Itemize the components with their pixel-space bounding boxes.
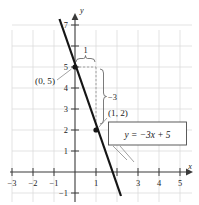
y-tick-label: −1 bbox=[59, 189, 68, 198]
x-tick-label: −2 bbox=[29, 179, 38, 188]
y-tick-label: 3 bbox=[64, 105, 68, 114]
y-axis-arrow bbox=[72, 13, 79, 20]
y-tick-label: 7 bbox=[64, 21, 68, 30]
x-axis-tick-labels: −3 −2 −1 1 3 4 5 bbox=[8, 179, 183, 188]
y-tick-label: 1 bbox=[64, 147, 68, 156]
y-tick-label: 2 bbox=[64, 126, 68, 135]
rise-brace-label: −3 bbox=[108, 93, 117, 102]
x-tick-label: 4 bbox=[157, 179, 162, 188]
equation-text: y = −3x + 5 bbox=[123, 130, 170, 140]
x-tick-label: 5 bbox=[178, 179, 182, 188]
rise-run-dashed-guides bbox=[75, 67, 96, 130]
x-tick-label: −1 bbox=[50, 179, 59, 188]
y-tick-label: 5 bbox=[64, 63, 68, 72]
x-tick-label: 3 bbox=[136, 179, 140, 188]
x-axis-label: x bbox=[187, 162, 192, 171]
y-intercept-label: (0, 5) bbox=[35, 76, 55, 86]
run-brace-label: 1 bbox=[83, 46, 87, 55]
grid-lines bbox=[12, 25, 192, 202]
equation-callout: y = −3x + 5 bbox=[109, 122, 187, 162]
run-brace: 1 bbox=[76, 46, 95, 62]
point-1-2 bbox=[93, 127, 98, 132]
y-tick-label: 4 bbox=[64, 84, 69, 93]
axes bbox=[10, 13, 193, 202]
y-axis-label: y bbox=[79, 6, 84, 15]
x-tick-label: −3 bbox=[8, 179, 17, 188]
point-y-intercept bbox=[72, 64, 77, 69]
line-graph-figure: −3 −2 −1 1 3 4 5 7 5 4 3 2 1 −1 x y bbox=[0, 0, 199, 205]
figure-container: −3 −2 −1 1 3 4 5 7 5 4 3 2 1 −1 x y bbox=[0, 0, 199, 205]
x-tick-label: 1 bbox=[94, 179, 98, 188]
second-point-label: (1, 2) bbox=[108, 108, 128, 118]
